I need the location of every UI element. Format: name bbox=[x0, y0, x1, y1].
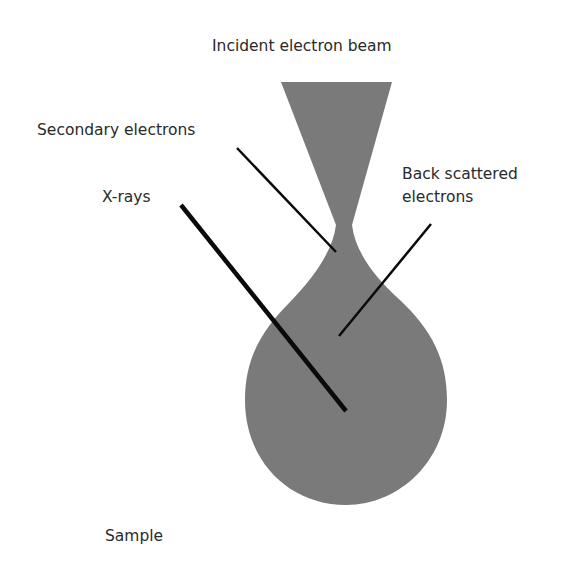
interaction-volume-diagram bbox=[0, 0, 581, 582]
sample-label: Sample bbox=[105, 526, 163, 546]
xrays-label: X-rays bbox=[102, 187, 151, 207]
secondary-electrons-label: Secondary electrons bbox=[37, 120, 195, 140]
backscattered-label-line1: Back scattered bbox=[402, 164, 518, 184]
incident-beam-label: Incident electron beam bbox=[212, 36, 392, 56]
interaction-volume bbox=[245, 82, 447, 505]
backscattered-label-line2: electrons bbox=[402, 187, 473, 207]
